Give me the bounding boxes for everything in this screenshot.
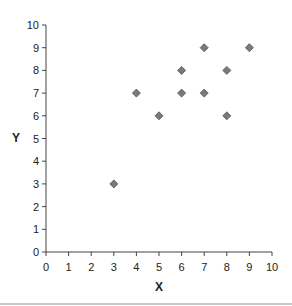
x-tick-label: 8 — [224, 261, 230, 273]
x-axis-title: X — [155, 280, 163, 294]
y-tick-label: 5 — [33, 133, 39, 145]
y-axis: 012345678910 — [27, 19, 46, 258]
data-point-diamond — [155, 112, 163, 120]
data-point-diamond — [200, 89, 208, 97]
data-point-diamond — [223, 112, 231, 120]
scatter-chart: 012345678910 012345678910 Y X — [0, 0, 292, 306]
x-tick-label: 7 — [201, 261, 207, 273]
x-tick-label: 3 — [111, 261, 117, 273]
y-tick-label: 9 — [33, 42, 39, 54]
x-tick-label: 10 — [266, 261, 278, 273]
y-axis-title: Y — [12, 131, 20, 145]
y-tick-label: 1 — [33, 223, 39, 235]
data-point-diamond — [110, 180, 118, 188]
x-tick-label: 1 — [66, 261, 72, 273]
x-tick-label: 2 — [88, 261, 94, 273]
x-tick-label: 4 — [133, 261, 139, 273]
data-point-diamond — [178, 89, 186, 97]
x-tick-label: 5 — [156, 261, 162, 273]
x-tick-label: 9 — [246, 261, 252, 273]
y-tick-label: 2 — [33, 201, 39, 213]
data-points — [110, 44, 254, 188]
data-point-diamond — [223, 66, 231, 74]
data-point-diamond — [200, 44, 208, 52]
y-tick-label: 4 — [33, 155, 39, 167]
bottom-divider — [0, 303, 292, 305]
y-tick-label: 6 — [33, 110, 39, 122]
y-tick-label: 7 — [33, 87, 39, 99]
data-point-diamond — [245, 44, 253, 52]
data-point-diamond — [132, 89, 140, 97]
x-axis: 012345678910 — [43, 252, 278, 273]
data-point-diamond — [178, 66, 186, 74]
y-tick-label: 10 — [27, 19, 39, 31]
y-tick-label: 3 — [33, 178, 39, 190]
y-tick-label: 8 — [33, 64, 39, 76]
x-tick-label: 0 — [43, 261, 49, 273]
x-tick-label: 6 — [179, 261, 185, 273]
y-tick-label: 0 — [33, 246, 39, 258]
